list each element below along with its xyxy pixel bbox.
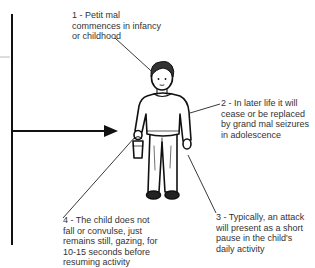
annotation-3: 3 - Typically, an attack will present as… bbox=[216, 212, 304, 254]
annotation-1-line: commences in infancy bbox=[72, 21, 161, 32]
leader-line-2 bbox=[190, 104, 220, 113]
annotation-4-line: fall or convulse, just bbox=[63, 226, 158, 237]
annotation-2-line: by grand mal seizures bbox=[221, 119, 309, 130]
diagram-canvas: 1 - Petit mal commences in infancy or ch… bbox=[0, 0, 315, 268]
annotation-4-line: remains still, gazing, for bbox=[63, 236, 158, 247]
annotation-4-line: 10-15 seconds before bbox=[63, 247, 158, 258]
annotation-4: 4 - The child does not fall or convulse,… bbox=[63, 215, 158, 268]
annotation-4-line: 4 - The child does not bbox=[63, 215, 158, 226]
annotation-1-line: or childhood bbox=[72, 31, 161, 42]
annotation-3-line: will present as a short bbox=[216, 223, 304, 234]
leader-line-3 bbox=[188, 155, 216, 213]
annotation-2-line: in adolescence bbox=[221, 130, 309, 141]
annotation-3-line: 3 - Typically, an attack bbox=[216, 212, 304, 223]
annotation-1: 1 - Petit mal commences in infancy or ch… bbox=[72, 10, 161, 42]
annotation-1-line: 1 - Petit mal bbox=[72, 10, 161, 21]
arrow-head-icon bbox=[104, 125, 118, 137]
leader-line-4 bbox=[63, 137, 135, 218]
annotation-2-line: cease or be replaced bbox=[221, 109, 309, 120]
annotation-2-line: 2 - In later life it will bbox=[221, 98, 309, 109]
child-figure-icon bbox=[133, 62, 191, 200]
annotation-3-line: daily activity bbox=[216, 244, 304, 255]
annotation-4-line: resuming activity bbox=[63, 257, 158, 268]
annotation-3-line: pause in the child's bbox=[216, 233, 304, 244]
annotation-2: 2 - In later life it will cease or be re… bbox=[221, 98, 309, 140]
